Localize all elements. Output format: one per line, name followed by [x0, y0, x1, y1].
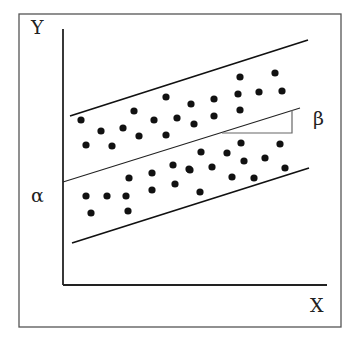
data-point — [210, 95, 217, 102]
data-point — [271, 69, 278, 76]
data-point — [77, 116, 84, 123]
data-point — [169, 161, 176, 168]
data-points — [77, 69, 288, 216]
data-point — [236, 106, 243, 113]
data-point — [108, 142, 115, 149]
data-point — [171, 180, 178, 187]
data-point — [276, 140, 283, 147]
data-point — [240, 157, 247, 164]
data-point — [130, 107, 137, 114]
data-point — [228, 173, 235, 180]
data-point — [173, 114, 180, 121]
data-point — [250, 174, 257, 181]
data-point — [148, 169, 155, 176]
regression-diagram — [0, 0, 358, 343]
data-point — [124, 207, 131, 214]
y-axis-label: Y — [31, 18, 44, 37]
data-point — [82, 192, 89, 199]
data-point — [162, 131, 169, 138]
data-point — [187, 100, 194, 107]
data-point — [150, 116, 157, 123]
data-point — [122, 192, 129, 199]
data-point — [255, 88, 262, 95]
data-point — [97, 127, 104, 134]
data-point — [148, 186, 155, 193]
data-point — [186, 166, 193, 173]
data-point — [87, 209, 94, 216]
alpha-label: α — [31, 186, 44, 205]
data-point — [223, 149, 230, 156]
lower-bound-line — [72, 168, 309, 243]
x-axis-label: X — [310, 296, 324, 315]
frame — [19, 14, 341, 327]
data-point — [208, 163, 215, 170]
data-point — [281, 164, 288, 171]
data-point — [119, 124, 126, 131]
data-point — [125, 174, 132, 181]
data-point — [278, 87, 285, 94]
data-point — [103, 192, 110, 199]
data-point — [261, 154, 268, 161]
data-point — [135, 132, 142, 139]
regression-line — [63, 108, 300, 182]
data-point — [196, 188, 203, 195]
data-point — [236, 73, 243, 80]
data-point — [234, 90, 241, 97]
data-point — [210, 112, 217, 119]
data-point — [190, 120, 197, 127]
data-point — [82, 141, 89, 148]
beta-label: β — [313, 109, 324, 128]
data-point — [197, 148, 204, 155]
data-point — [237, 139, 244, 146]
data-point — [162, 93, 169, 100]
